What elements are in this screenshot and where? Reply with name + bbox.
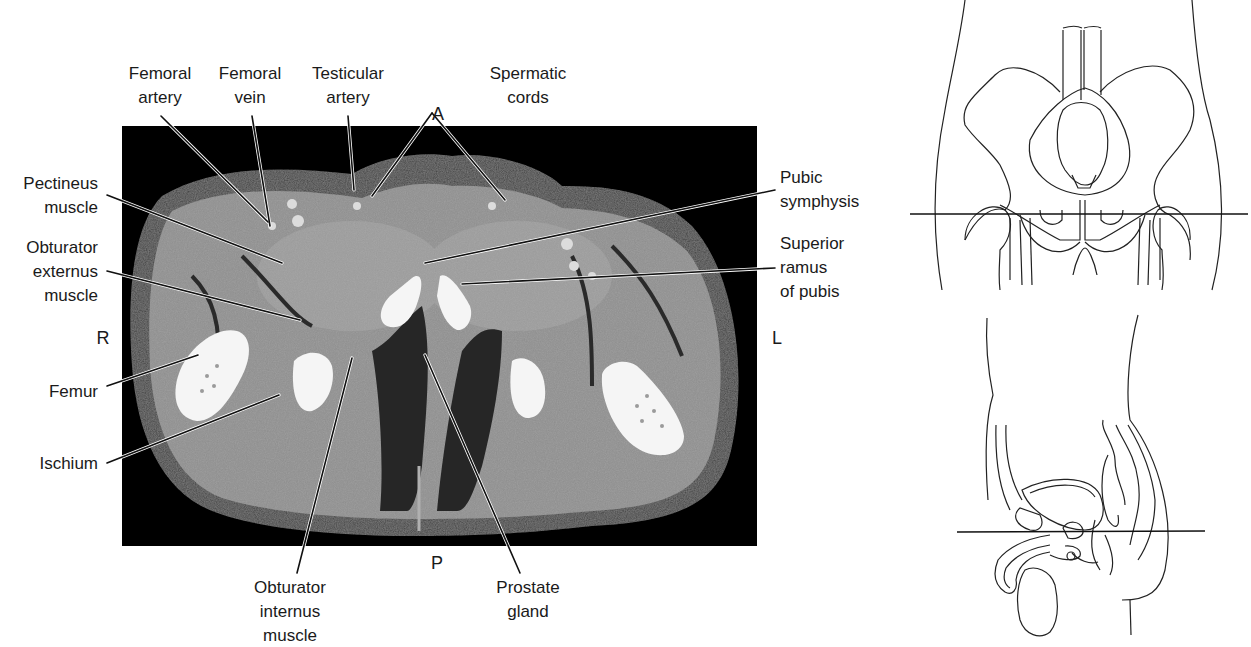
sagittal-pelvis-diagram: [0, 0, 1251, 647]
